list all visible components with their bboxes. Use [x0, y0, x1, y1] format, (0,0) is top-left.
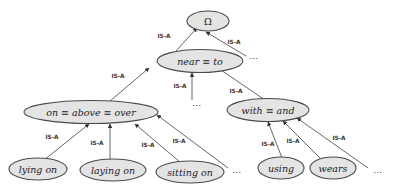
node-label: with ≡ and: [242, 105, 295, 116]
edge-label: IS-A: [90, 140, 104, 146]
edge-label: IS-A: [111, 73, 125, 79]
edge-label: IS-A: [229, 88, 243, 94]
node-near: near ≡ to: [157, 50, 243, 73]
node-label: using: [268, 163, 294, 174]
node-wears: wears: [310, 157, 356, 179]
ellipsis-on: …: [232, 165, 242, 175]
node-root: Ω: [187, 11, 229, 31]
edge-label: IS-A: [173, 83, 187, 89]
ellipsis-with: …: [373, 165, 383, 175]
edge-label: IS-A: [261, 141, 275, 147]
edge-label: IS-A: [286, 138, 300, 144]
node-laying-on: laying on: [80, 159, 146, 181]
edge-near-to-root: [176, 28, 197, 51]
edge-label: IS-A: [332, 135, 346, 141]
node-label: lying on: [19, 164, 58, 175]
edge-more-to-on: [157, 115, 228, 168]
ellipsis-near: …: [192, 98, 202, 108]
edge-label: IS-A: [227, 39, 241, 45]
edge-using-to-with: [268, 122, 282, 158]
edge-with-to-near: [218, 68, 265, 100]
taxonomy-diagram: IS-A IS-A … IS-A IS-A … IS-A IS-A IS-A I…: [0, 0, 395, 192]
node-label: Ω: [204, 16, 212, 27]
node-sitting-on: sitting on: [156, 161, 224, 183]
node-on: on ≡ above ≡ over: [24, 101, 158, 124]
edge-label: IS-A: [141, 142, 155, 148]
edge-label: IS-A: [45, 134, 59, 140]
ellipsis-root: …: [249, 51, 259, 61]
edge-label: IS-A: [172, 138, 186, 144]
node-label: laying on: [91, 165, 135, 176]
edge-label: IS-A: [157, 33, 171, 39]
edge-lying-on-to-on: [44, 124, 89, 160]
node-label: on ≡ above ≡ over: [46, 107, 137, 118]
node-with: with ≡ and: [227, 99, 309, 122]
node-label: near ≡ to: [177, 56, 223, 67]
node-using: using: [258, 157, 304, 179]
node-label: sitting on: [167, 167, 213, 178]
node-lying-on: lying on: [9, 158, 67, 180]
node-label: wears: [319, 163, 348, 174]
